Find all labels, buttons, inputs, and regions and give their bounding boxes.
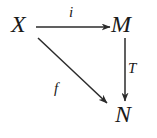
arrow-x-to-n [38, 38, 107, 103]
edge-label-i: i [69, 5, 73, 20]
commutative-diagram: X M N i T f [0, 0, 157, 138]
node-label-n: N [115, 102, 131, 126]
node-label-x: X [11, 12, 26, 36]
edge-label-f: f [54, 81, 58, 96]
edge-label-t: T [128, 61, 136, 76]
node-label-m: M [111, 12, 131, 36]
